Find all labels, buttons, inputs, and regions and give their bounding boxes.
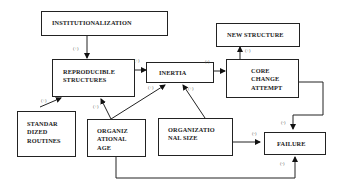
- node-label: REPRODUCIBLE: [63, 68, 134, 76]
- edge-size-inertia: [183, 85, 205, 118]
- edge-label-core-new: (+): [245, 48, 251, 53]
- edge-age-failure: [116, 157, 295, 178]
- edge-label-std-rep: (+): [41, 98, 47, 103]
- node-label: CORE: [251, 67, 298, 75]
- node-label: NAL SIZE: [168, 134, 232, 142]
- node-label: INSTITUTIONALIZATION: [52, 19, 167, 27]
- node-label: DIZED: [27, 128, 75, 136]
- node-inertia: INERTIA: [146, 62, 214, 83]
- node-institutionalization: INSTITUTIONALIZATION: [41, 11, 168, 36]
- node-label: ATTEMPT: [251, 84, 298, 92]
- node-label: ORGANIZATIO: [168, 126, 232, 134]
- edge-label-age-inertia: (+): [148, 85, 154, 90]
- edge-label-core-failure: (-): [281, 120, 286, 125]
- node-failure: FAILURE: [264, 132, 326, 155]
- edge-label-rep-inertia: (+): [134, 58, 140, 63]
- node-label: FAILURE: [277, 140, 325, 148]
- edge-label-inertia-core: (-): [205, 59, 210, 64]
- edge-label-size-inertia: (+): [188, 86, 194, 91]
- node-label: NEW STRUCTURE: [227, 31, 299, 39]
- edge-label-age-rep: (+): [93, 104, 99, 109]
- node-label: ATIONAL: [97, 135, 145, 143]
- node-label: STANDAR: [27, 120, 75, 128]
- node-standardized-routines: STANDAR DIZED ROUTINES: [17, 111, 76, 157]
- node-label: ROUTINES: [27, 137, 75, 145]
- node-organizational-age: ORGANIZ ATIONAL AGE: [87, 119, 146, 157]
- node-reproducible-structures: REPRODUCIBLE STRUCTURES: [52, 59, 135, 97]
- node-label: STRUCTURES: [63, 76, 134, 84]
- node-new-structure: NEW STRUCTURE: [216, 23, 300, 47]
- edge-label-size-failure: (-): [252, 131, 257, 136]
- edge-label-inst-rep: (+): [73, 46, 79, 51]
- node-label: INERTIA: [159, 69, 213, 77]
- node-organizational-size: ORGANIZATIO NAL SIZE: [158, 118, 233, 156]
- node-label: CHANGE: [251, 75, 298, 83]
- edge-age-rep: [101, 99, 111, 119]
- node-label: AGE: [97, 144, 145, 152]
- node-label: ORGANIZ: [97, 127, 145, 135]
- node-core-change-attempt: CORE CHANGE ATTEMPT: [226, 59, 299, 98]
- edge-label-age-failure: (-): [280, 161, 285, 166]
